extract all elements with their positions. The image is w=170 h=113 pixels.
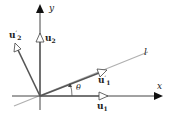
- line-l-label: l: [144, 48, 147, 57]
- angle-theta-label: θ: [76, 84, 81, 92]
- vector-u2-prime-label: u′2: [9, 30, 21, 41]
- vector-u2-label: u2: [45, 34, 56, 44]
- vector-u2-prime-arrowhead-icon: [14, 43, 21, 52]
- x-axis-arrowhead-icon: [154, 92, 163, 100]
- vector-u2-prime: [18, 50, 40, 96]
- vector-u2-arrowhead-icon: [36, 33, 44, 42]
- vector-u1-label: u1: [97, 102, 108, 112]
- line-l: [14, 52, 148, 106]
- vector-u1-prime-label: u′1: [98, 75, 110, 86]
- y-axis-label: y: [49, 4, 54, 13]
- y-axis-arrowhead-icon: [36, 4, 44, 13]
- x-axis-label: x: [157, 82, 162, 91]
- vector-u1-arrowhead-icon: [99, 92, 108, 100]
